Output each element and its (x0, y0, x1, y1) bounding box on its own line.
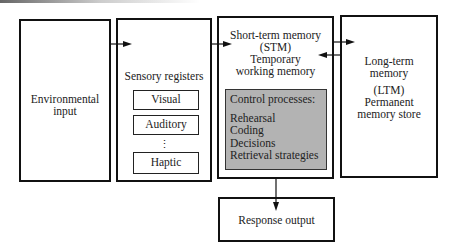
arrows-layer (0, 0, 453, 252)
arrow-env-to-sensory (111, 41, 132, 47)
arrow-stm-to-ltm (334, 39, 355, 45)
arrow-stm-to-response (273, 179, 279, 211)
arrow-sensory-to-stm (212, 41, 232, 47)
arrow-ltm-to-stm (318, 52, 340, 58)
